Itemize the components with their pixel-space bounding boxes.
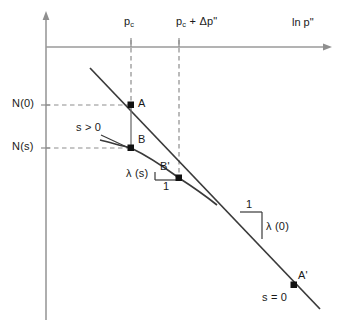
- gridline-group: [46, 40, 179, 178]
- point-marker-group: [128, 102, 298, 289]
- y-tick-label-N0: N(0): [12, 98, 34, 109]
- y-axis-arrowhead: [43, 11, 50, 20]
- x-tick-label-pc-delta: pc + Δp": [176, 16, 217, 27]
- annotation-suction-positive: s > 0: [76, 122, 101, 133]
- point-marker-A: [128, 102, 135, 109]
- x-axis-arrowhead: [323, 44, 332, 51]
- annotation-lambda-s-one: 1: [163, 181, 169, 192]
- point-label-A: A: [138, 98, 146, 109]
- curve-group: [90, 68, 320, 309]
- x-tick-label-pc: pc: [124, 16, 134, 27]
- annotation-suction-zero: s = 0: [262, 292, 287, 303]
- annotation-lambda-zero-one: 1: [246, 199, 252, 210]
- axis-group: [43, 11, 332, 320]
- compression-line-diagram: ln p" specific volume pc pc + Δp" N(0) N…: [0, 0, 342, 326]
- tick-group: [41, 38, 179, 148]
- annotation-lambda-s: λ (s): [126, 168, 148, 179]
- s-equals-zero-line: [90, 68, 320, 309]
- diagram-canvas: [0, 0, 342, 326]
- point-marker-B-prime: [176, 175, 183, 182]
- point-marker-A-prime: [291, 282, 298, 289]
- annotation-lambda-zero: λ (0): [266, 221, 289, 232]
- point-marker-B: [128, 145, 135, 152]
- point-label-A-prime: A': [298, 270, 308, 281]
- x-axis-title: ln p": [292, 16, 314, 28]
- y-tick-label-Ns: N(s): [12, 141, 34, 152]
- point-label-B-prime: B': [160, 161, 170, 172]
- slope-triangle-lambda-zero: [240, 212, 262, 239]
- s-greater-than-zero-curve: [100, 140, 217, 205]
- point-label-B: B: [138, 134, 146, 145]
